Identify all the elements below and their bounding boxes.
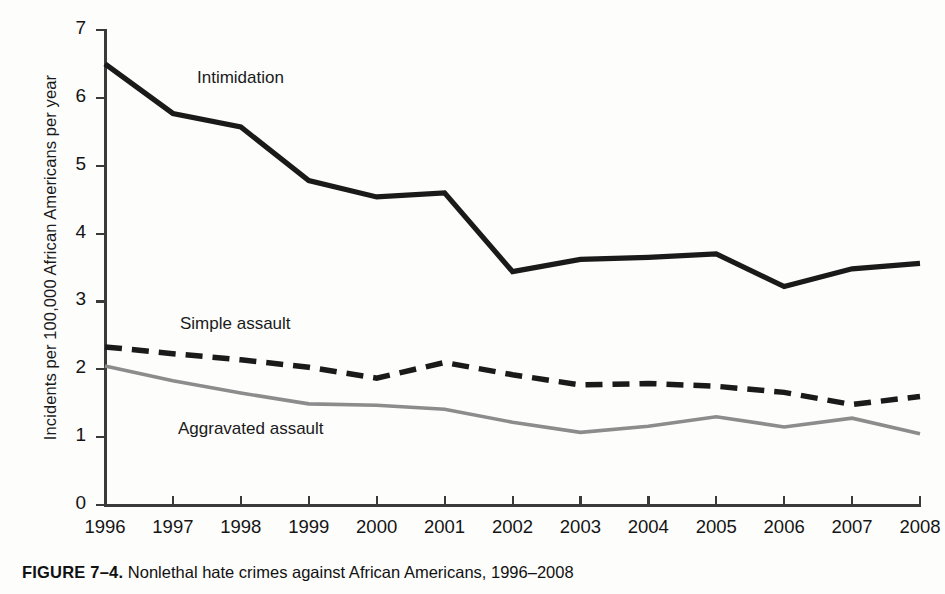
- figure-caption: FIGURE 7–4. Nonlethal hate crimes agains…: [22, 563, 574, 582]
- series-line-intimidation: [105, 64, 920, 287]
- figure-number: FIGURE 7–4.: [22, 563, 123, 581]
- series-label-simple-assault: Simple assault: [180, 314, 291, 334]
- series-label-intimidation: Intimidation: [197, 68, 284, 88]
- series-line-simple-assault: [105, 347, 920, 405]
- figure-caption-text: Nonlethal hate crimes against African Am…: [128, 563, 574, 581]
- chart-plot: [0, 0, 945, 594]
- series-label-aggravated-assault: Aggravated assault: [178, 419, 324, 439]
- figure-root: Incidents per 100,000 African Americans …: [0, 0, 945, 594]
